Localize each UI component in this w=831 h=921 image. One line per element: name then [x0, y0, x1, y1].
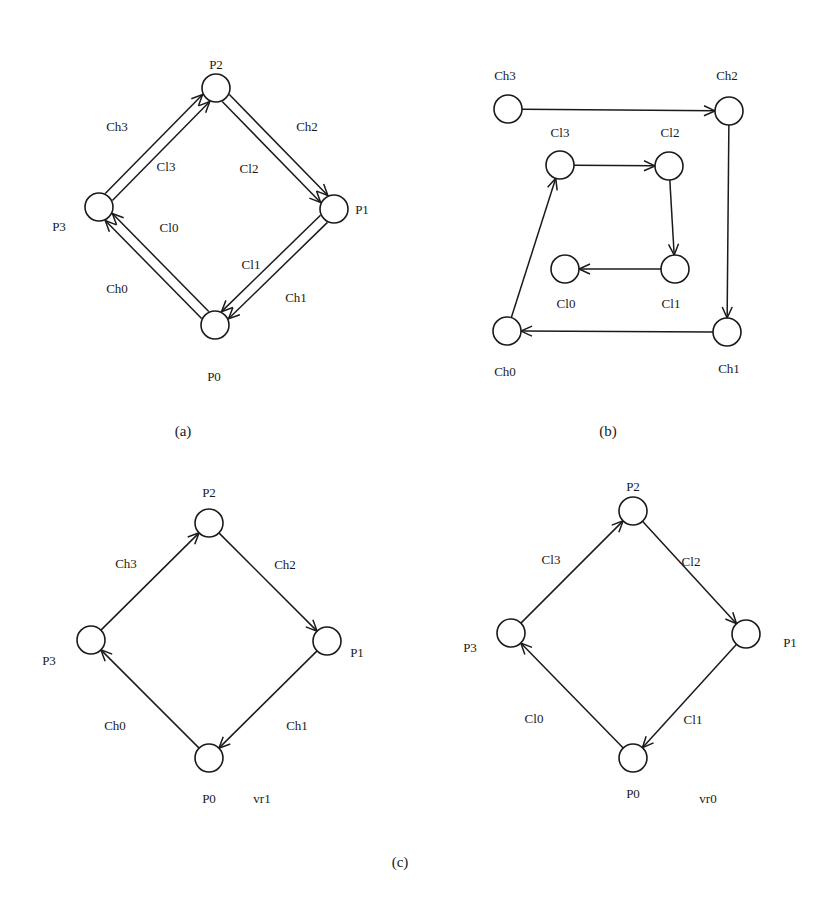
label-b-Cl3: Cl3 [551, 125, 570, 140]
label-a-Cl2: Cl2 [240, 161, 259, 176]
node-b-Cl3 [546, 151, 574, 179]
edge-Ch1-to-Ch0 [521, 326, 713, 336]
edge-P0-to-P3 [105, 220, 201, 318]
labels-layer: P2P1P0P3Ch3Cl3Cl2Ch2Cl0Cl1Ch0Ch1Ch3Ch2Cl… [42, 57, 797, 806]
label-c-right-vr0: vr0 [699, 791, 716, 806]
label-c-left-P1: P1 [350, 645, 364, 660]
label-c-right-Cl2: Cl2 [682, 554, 701, 569]
edge-Cl2-to-Cl1 [669, 180, 679, 255]
caption-a: (a) [175, 423, 192, 440]
node-b-Ch1 [713, 318, 741, 346]
label-a-Cl0: Cl0 [160, 220, 179, 235]
label-b-Ch1: Ch1 [718, 361, 740, 376]
node-b-Cl0 [551, 255, 579, 283]
node-c-right-P2 [619, 497, 647, 525]
label-c-left-P3: P3 [42, 653, 56, 668]
label-a-P2: P2 [209, 57, 223, 72]
node-c-right-P3 [497, 619, 525, 647]
edge-P2-to-P1 [642, 521, 736, 623]
label-a-Ch2: Ch2 [296, 119, 318, 134]
edge-P0-to-P3 [521, 643, 623, 748]
label-b-Ch2: Ch2 [716, 68, 738, 83]
edge-P2-to-P1 [229, 95, 327, 196]
label-a-P1: P1 [355, 202, 369, 217]
label-c-left-Ch1: Ch1 [286, 718, 308, 733]
label-c-right-P2: P2 [626, 479, 640, 494]
edges-layer [101, 94, 737, 748]
label-c-left-vr1: vr1 [253, 791, 270, 806]
label-b-Cl2: Cl2 [661, 125, 680, 140]
node-c-right-P1 [732, 620, 760, 648]
label-b-Ch0: Ch0 [494, 364, 516, 379]
node-a-P0 [201, 311, 229, 339]
label-c-left-Ch0: Ch0 [104, 718, 126, 733]
edge-Ch2-to-Ch1 [722, 125, 732, 318]
figure-canvas: P2P1P0P3Ch3Cl3Cl2Ch2Cl0Cl1Ch0Ch1Ch3Ch2Cl… [0, 0, 831, 921]
label-a-Cl1: Cl1 [242, 257, 261, 272]
edge-Cl3-to-Cl2 [574, 161, 655, 171]
diagram-b [511, 106, 732, 336]
label-c-right-P3: P3 [463, 640, 477, 655]
edge-P2-to-P1 [219, 533, 317, 631]
node-c-left-P1 [313, 627, 341, 655]
label-a-Ch0: Ch0 [106, 281, 128, 296]
node-b-Cl1 [661, 255, 689, 283]
edge-P3-to-P2 [101, 533, 199, 630]
node-c-left-P3 [77, 626, 105, 654]
label-a-Cl3: Cl3 [157, 159, 176, 174]
edge-P3-to-P2 [112, 101, 209, 200]
diagram-a [105, 94, 328, 318]
label-c-right-Cl1: Cl1 [684, 712, 703, 727]
edge-Cl1-to-Cl0 [579, 264, 661, 274]
node-b-Ch3 [494, 95, 522, 123]
label-c-right-Cl0: Cl0 [525, 711, 544, 726]
label-a-P3: P3 [52, 219, 66, 234]
node-b-Ch0 [493, 317, 521, 345]
caption-b: (b) [599, 423, 617, 440]
edge-P3-to-P2 [521, 521, 623, 623]
node-c-left-P2 [195, 509, 223, 537]
label-b-Cl1: Cl1 [662, 296, 681, 311]
node-a-P3 [85, 193, 113, 221]
label-c-left-P2: P2 [202, 485, 216, 500]
label-b-Cl0: Cl0 [557, 296, 576, 311]
label-b-Ch3: Ch3 [494, 68, 516, 83]
node-a-P2 [202, 74, 230, 102]
node-b-Cl2 [655, 152, 683, 180]
node-a-P1 [320, 195, 348, 223]
edge-P1-to-P0 [642, 644, 736, 747]
label-c-left-P0: P0 [202, 791, 216, 806]
label-c-left-Ch3: Ch3 [115, 556, 137, 571]
node-c-right-P0 [619, 744, 647, 772]
edge-Ch0-to-Cl3 [511, 178, 557, 317]
label-c-right-Cl3: Cl3 [542, 552, 561, 567]
label-a-P0: P0 [207, 369, 221, 384]
edge-P3-to-P2 [105, 94, 202, 193]
caption-c: (c) [392, 854, 409, 871]
label-a-Ch1: Ch1 [285, 290, 307, 305]
edge-Ch3-to-Ch2 [522, 106, 715, 116]
node-b-Ch2 [715, 97, 743, 125]
node-c-left-P0 [195, 744, 223, 772]
edge-P1-to-P0 [219, 651, 317, 748]
edge-P0-to-P3 [101, 650, 199, 748]
label-a-Ch3: Ch3 [106, 119, 128, 134]
edge-P2-to-P1 [222, 102, 320, 203]
label-c-right-P0: P0 [626, 786, 640, 801]
label-c-left-Ch2: Ch2 [274, 557, 296, 572]
label-c-right-P1: P1 [783, 635, 797, 650]
